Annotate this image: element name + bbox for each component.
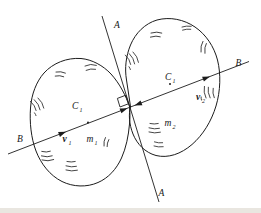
label-a-bottom: A [158, 188, 165, 198]
label-mass-2-sub: 2 [173, 124, 176, 130]
label-b-right: B [236, 58, 242, 68]
sketch-hatch-body2-top [150, 29, 162, 40]
sketch-hatch-body2-bottom-2 [153, 141, 163, 148]
body-1-outline [30, 58, 130, 186]
velocity-v2-arrowhead [202, 74, 211, 82]
center-1-dot [87, 122, 89, 124]
label-center-1-sub: 1 [80, 107, 83, 113]
label-center-2: C [165, 72, 172, 82]
sketch-hatch-body1-right [101, 138, 110, 148]
body-2-outline [126, 19, 220, 157]
sketch-hatch-body1-bottom [64, 160, 77, 173]
sketch-hatch-body1-topleft [54, 69, 65, 79]
label-velocity-2: v [196, 92, 201, 102]
sketch-hatch-body2-bottom [147, 122, 160, 135]
label-center-1: C [72, 101, 79, 111]
label-b-left: B [17, 134, 23, 144]
label-center-2-sub: 1 [173, 78, 176, 84]
sketch-hatch-body1-topright [84, 63, 96, 72]
label-velocity-1: v [63, 134, 68, 144]
label-mass-1: m [87, 134, 94, 144]
label-a-top: A [113, 20, 120, 30]
scan-edge-shadow [0, 208, 261, 213]
sketch-hatch-body1-left [30, 97, 45, 116]
sketch-hatch-body2-upper-right [198, 41, 210, 54]
right-angle-marker [117, 95, 128, 107]
label-mass-2: m [165, 118, 172, 128]
impact-diagram: A A B B C 1 v 1 m 1 C 1 v 2 m 2 [0, 0, 261, 213]
diagram-canvas: A A B B C 1 v 1 m 1 C 1 v 2 m 2 [0, 0, 261, 213]
label-mass-1-sub: 1 [95, 140, 98, 146]
sketch-hatch-body2-topright [182, 25, 192, 31]
label-velocity-1-sub: 1 [69, 140, 72, 146]
center-2-dot [169, 83, 171, 85]
label-velocity-2-sub: 2 [202, 98, 205, 104]
contact-arrowhead-right [134, 100, 143, 108]
